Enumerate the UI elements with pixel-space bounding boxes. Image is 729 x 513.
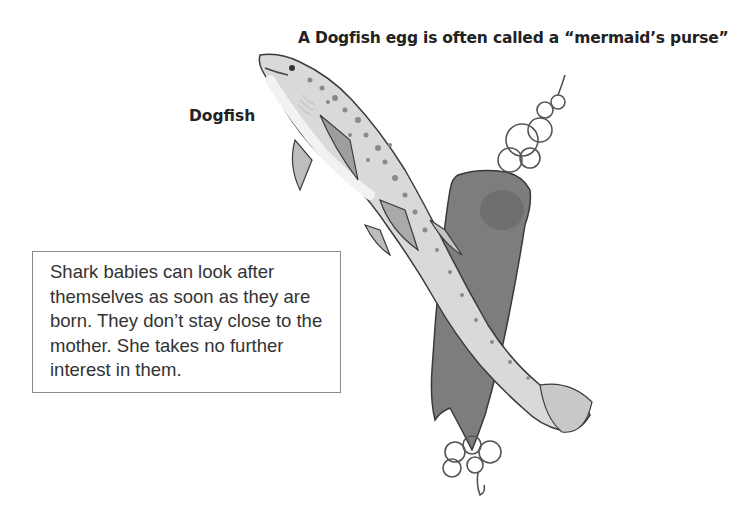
dogfish-and-egg-illustration [240, 40, 600, 500]
dogfish-shark-icon [259, 54, 592, 432]
